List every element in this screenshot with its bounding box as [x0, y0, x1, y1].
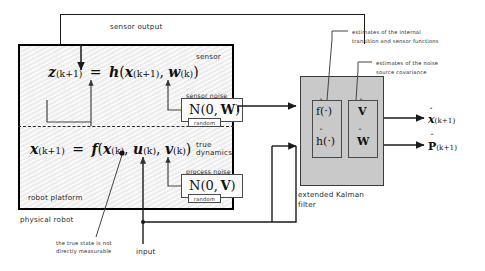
diagram-canvas: sensor output sensor z(k+1) = h(x(k+1), … — [0, 0, 485, 271]
note-noise-line1: estimates of the noise — [376, 60, 438, 67]
sensor-noise-random-tag: random — [188, 118, 221, 127]
eq-sensor-fn: h — [109, 64, 119, 80]
true-state-note-line1: the true state is not — [56, 240, 112, 247]
eq-sensor-arg1: x — [125, 64, 133, 80]
eq-dyn-arg2-sub: (k) — [143, 145, 156, 156]
v-hat-accent: ˆ — [359, 99, 363, 110]
h-hat-accent: ˆ — [319, 129, 323, 140]
robot-platform-label: robot platform — [28, 193, 83, 203]
sensor-label: sensor — [196, 52, 221, 62]
sensor-noise-cov: W — [220, 102, 235, 117]
eq-dyn-equals: = — [72, 141, 84, 157]
sensor-output-path — [60, 14, 365, 44]
input-junction-dot — [141, 220, 145, 224]
w-hat-accent: ˆ — [358, 129, 362, 140]
note-internal-line2: transition and sensor functions — [352, 38, 439, 45]
sensor-noise-distribution: N(0, W) — [189, 102, 240, 117]
output-cov-sub: (k+1) — [436, 143, 457, 152]
note-internal-line1: estimates of the internal — [352, 29, 421, 36]
output-state-sub: (k+1) — [435, 116, 456, 125]
ekf-label-line1: extended Kalman — [298, 190, 364, 200]
eq-dyn-lhs-sub: (k+1) — [38, 145, 64, 156]
eq-sensor-lhs: z — [48, 64, 56, 80]
note-noise-line2: source covariance — [376, 69, 427, 76]
eq-dyn-arg1-sub: (k) — [111, 145, 124, 156]
dynamics-equation: x(k+1) = f(x(k), u(k), v(k)) — [30, 141, 191, 157]
process-noise-mean: 0 — [205, 178, 213, 193]
eq-sensor-arg1-sub: (k+1) — [133, 68, 159, 79]
p-hat-accent: ˆ — [430, 134, 434, 145]
process-noise-random-tag: random — [188, 194, 221, 203]
eq-sensor-lhs-sub: (k+1) — [56, 68, 82, 79]
x-hat-accent: ˆ — [429, 108, 433, 119]
sensor-output-label: sensor output — [110, 22, 162, 32]
physical-robot-label: physical robot — [20, 215, 74, 225]
process-noise-distribution: N(0, V) — [189, 178, 236, 193]
ekf-label-line2: filter — [298, 200, 316, 210]
sensor-noise-mean: 0 — [205, 102, 213, 117]
true-dynamics-label-line2: dynamics — [196, 148, 232, 158]
sensor-equation: z(k+1) = h(x(k+1), w(k)) — [48, 64, 199, 80]
eq-sensor-arg2: w — [168, 64, 180, 80]
eq-dyn-arg3-sub: (k) — [173, 145, 186, 156]
eq-dyn-arg2: u — [133, 141, 143, 157]
eq-sensor-arg2-sub: (k) — [180, 68, 193, 79]
eq-sensor-equals: = — [90, 64, 102, 80]
f-hat-accent: ˆ — [319, 99, 323, 110]
true-state-note-line2: directly measurable — [56, 248, 111, 255]
eq-dyn-arg3: v — [165, 141, 173, 157]
input-label: input — [136, 247, 156, 257]
process-noise-cov: V — [220, 178, 230, 193]
